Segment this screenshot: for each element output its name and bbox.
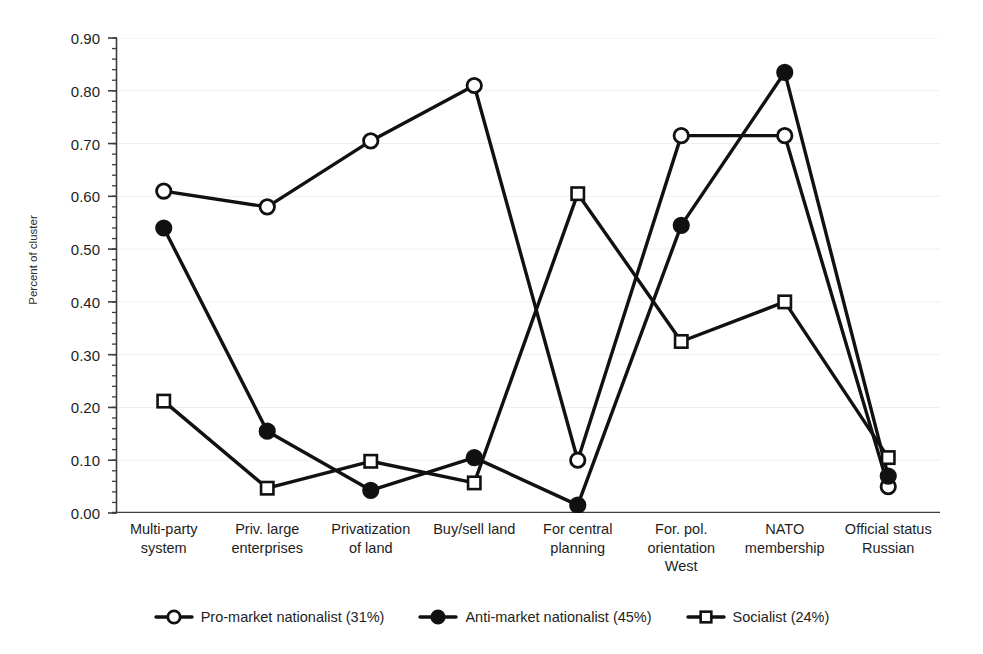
plot-svg — [112, 38, 940, 513]
data-point-marker-filled-circle — [778, 65, 792, 79]
data-point-marker-open-square — [675, 335, 687, 347]
data-point-marker-open-square — [261, 482, 273, 494]
x-axis-tick-labels: Multi-party systemPriv. large enterprise… — [112, 520, 940, 598]
data-point-marker-open-square — [468, 477, 480, 489]
series-layer — [157, 65, 896, 512]
y-axis-tick-labels: 0.900.800.700.600.500.400.300.200.100.00 — [48, 0, 100, 654]
data-point-marker-open-circle — [674, 128, 688, 142]
x-axis-tick-label: Multi-party system — [112, 520, 216, 557]
data-point-marker-filled-circle — [260, 424, 274, 438]
data-point-marker-filled-circle — [432, 611, 444, 623]
data-point-marker-open-square — [779, 296, 791, 308]
legend-item[interactable]: Pro-market nationalist (31%) — [154, 608, 385, 626]
data-point-marker-open-square — [572, 188, 584, 200]
data-point-marker-open-square — [365, 455, 377, 467]
gridlines — [112, 38, 940, 460]
data-point-marker-open-circle — [260, 200, 274, 214]
x-axis-tick-label: Privatization of land — [319, 520, 423, 557]
legend-item[interactable]: Anti-market nationalist (45%) — [418, 608, 651, 626]
x-axis-tick-label: For. pol. orientation West — [630, 520, 734, 576]
series-3 — [164, 194, 889, 489]
x-axis-tick-label: NATO membership — [733, 520, 837, 557]
data-point-marker-filled-circle — [157, 221, 171, 235]
y-axis-title-label: Percent of cluster — [27, 215, 39, 304]
data-point-marker-open-square — [158, 395, 170, 407]
data-point-marker-open-square — [882, 451, 894, 463]
legend-label: Anti-market nationalist (45%) — [465, 609, 651, 625]
y-axis-tick-label: 0.80 — [48, 83, 100, 98]
y-axis-tick-label: 0.20 — [48, 400, 100, 415]
data-point-marker-open-circle — [467, 78, 481, 92]
axis-lines — [112, 513, 940, 514]
data-point-marker-open-circle — [157, 184, 171, 198]
plot-area — [112, 38, 940, 513]
x-axis-tick-label: Official status Russian — [837, 520, 941, 557]
y-axis-tick-label: 0.60 — [48, 189, 100, 204]
y-axis-tick-label: 0.30 — [48, 347, 100, 362]
y-axis-tick-label: 0.00 — [48, 506, 100, 521]
series-line — [164, 194, 889, 489]
legend-label: Socialist (24%) — [733, 609, 830, 625]
data-point-marker-filled-circle — [571, 498, 585, 512]
x-axis-tick-label: Buy/sell land — [423, 520, 527, 539]
legend-item[interactable]: Socialist (24%) — [686, 608, 830, 626]
data-point-marker-open-circle — [167, 611, 179, 623]
legend-label: Pro-market nationalist (31%) — [201, 609, 385, 625]
data-point-marker-open-square — [700, 612, 711, 623]
y-axis-tick-label: 0.50 — [48, 242, 100, 257]
y-axis-tick-label: 0.90 — [48, 31, 100, 46]
legend-marker-filled-circle-icon — [418, 608, 458, 626]
data-point-marker-filled-circle — [467, 450, 481, 464]
y-axis — [100, 33, 118, 523]
data-point-marker-filled-circle — [674, 218, 688, 232]
line-chart: Percent of cluster 0.900.800.700.600.500… — [0, 0, 983, 654]
data-point-marker-open-circle — [571, 453, 585, 467]
data-point-marker-filled-circle — [364, 483, 378, 497]
data-point-marker-open-circle — [364, 134, 378, 148]
data-point-marker-filled-circle — [881, 469, 895, 483]
x-axis-tick-label: Priv. large enterprises — [216, 520, 320, 557]
legend-marker-open-circle-icon — [154, 608, 194, 626]
chart-legend: Pro-market nationalist (31%)Anti-market … — [0, 608, 983, 626]
data-point-marker-open-circle — [778, 128, 792, 142]
y-axis-tick-label: 0.40 — [48, 294, 100, 309]
y-axis-tick-label: 0.70 — [48, 136, 100, 151]
y-axis-title: Percent of cluster — [22, 0, 44, 520]
y-axis-tick-label: 0.10 — [48, 453, 100, 468]
x-axis-tick-label: For central planning — [526, 520, 630, 557]
legend-marker-open-square-icon — [686, 608, 726, 626]
